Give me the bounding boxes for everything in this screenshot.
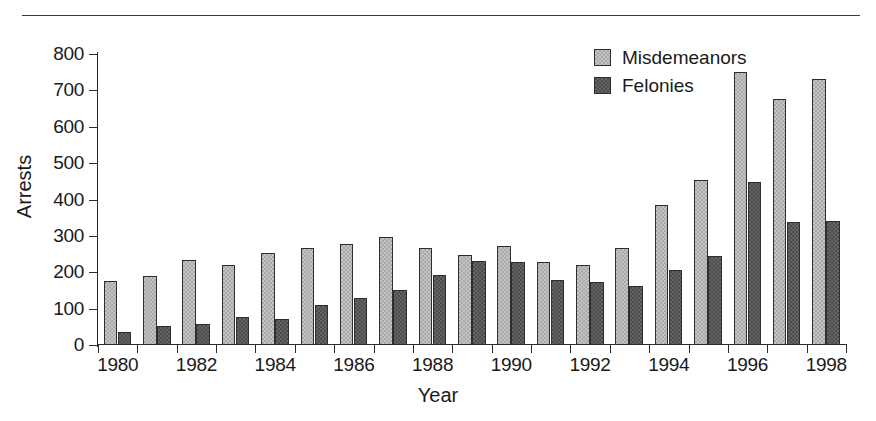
bar-felonies-1983 bbox=[236, 317, 250, 345]
x-axis-tick bbox=[570, 345, 571, 353]
bar-felonies-1998 bbox=[826, 221, 840, 345]
x-axis-tick bbox=[531, 345, 532, 353]
x-axis-tick bbox=[728, 345, 729, 353]
y-axis-tick-label: 100 bbox=[38, 299, 84, 318]
bar-felonies-1984 bbox=[275, 319, 289, 345]
x-axis-tick-label: 1998 bbox=[806, 355, 847, 374]
x-axis-tick-label: 1990 bbox=[491, 355, 532, 374]
bar-felonies-1995 bbox=[708, 256, 722, 345]
bar-misdemeanors-1985 bbox=[301, 248, 315, 345]
bar-felonies-1985 bbox=[315, 305, 329, 345]
legend-swatch-icon bbox=[594, 49, 611, 66]
bar-misdemeanors-1994 bbox=[655, 205, 669, 345]
bar-felonies-1980 bbox=[118, 332, 132, 345]
y-axis-tick-label: 300 bbox=[38, 226, 84, 245]
x-axis-tick bbox=[216, 345, 217, 353]
y-axis-tick bbox=[89, 272, 97, 273]
bar-felonies-1988 bbox=[433, 275, 447, 345]
x-axis-tick-label: 1988 bbox=[412, 355, 453, 374]
y-axis-tick-label: 600 bbox=[38, 117, 84, 136]
bar-misdemeanors-1988 bbox=[419, 248, 433, 345]
bar-misdemeanors-1996 bbox=[734, 72, 748, 345]
bar-felonies-1982 bbox=[196, 324, 210, 345]
bar-misdemeanors-1980 bbox=[104, 281, 118, 345]
y-axis-tick-labels: 0100200300400500600700800 bbox=[30, 0, 84, 421]
bar-felonies-1997 bbox=[787, 222, 801, 345]
y-axis-tick-label: 800 bbox=[38, 44, 84, 63]
bar-misdemeanors-1997 bbox=[773, 99, 787, 345]
bar-misdemeanors-1981 bbox=[143, 276, 157, 345]
bar-misdemeanors-1993 bbox=[615, 248, 629, 345]
x-axis-tick bbox=[137, 345, 138, 353]
x-axis-tick bbox=[689, 345, 690, 353]
x-axis-title: Year bbox=[0, 384, 876, 407]
bar-misdemeanors-1998 bbox=[812, 79, 826, 345]
y-axis-tick bbox=[89, 345, 97, 346]
bar-misdemeanors-1992 bbox=[576, 265, 590, 345]
legend-item-misdemeanors: Misdemeanors bbox=[594, 45, 824, 69]
legend-label: Felonies bbox=[622, 76, 694, 95]
legend-label: Misdemeanors bbox=[622, 48, 747, 67]
bar-felonies-1990 bbox=[511, 262, 525, 345]
bar-felonies-1992 bbox=[590, 282, 604, 345]
bar-misdemeanors-1984 bbox=[261, 253, 275, 345]
x-axis-tick-label: 1992 bbox=[570, 355, 611, 374]
bar-misdemeanors-1982 bbox=[182, 260, 196, 345]
bar-misdemeanors-1995 bbox=[694, 180, 708, 346]
bar-misdemeanors-1986 bbox=[340, 244, 354, 345]
bar-misdemeanors-1987 bbox=[379, 237, 393, 345]
x-axis-tick-label: 1986 bbox=[333, 355, 374, 374]
x-axis-tick bbox=[334, 345, 335, 353]
y-axis-tick bbox=[89, 309, 97, 310]
x-axis-tick-label: 1980 bbox=[97, 355, 138, 374]
bar-misdemeanors-1983 bbox=[222, 265, 236, 345]
x-axis-tick bbox=[492, 345, 493, 353]
x-axis-tick bbox=[767, 345, 768, 353]
bar-chart-figure: 0100200300400500600700800 19801982198419… bbox=[0, 0, 876, 421]
y-axis-tick-label: 0 bbox=[38, 335, 84, 354]
x-axis-tick bbox=[610, 345, 611, 353]
y-axis-tick bbox=[89, 54, 97, 55]
legend-item-felonies: Felonies bbox=[594, 73, 824, 97]
x-axis-tick bbox=[807, 345, 808, 353]
y-axis-tick bbox=[89, 127, 97, 128]
x-axis-tick bbox=[374, 345, 375, 353]
x-axis-tick-label: 1994 bbox=[648, 355, 689, 374]
x-axis-tick bbox=[649, 345, 650, 353]
chart-legend: MisdemeanorsFelonies bbox=[594, 45, 824, 101]
bar-felonies-1994 bbox=[669, 270, 683, 345]
x-axis-tick bbox=[295, 345, 296, 353]
y-axis-title: Arrests bbox=[13, 117, 36, 257]
x-axis-tick-label: 1982 bbox=[176, 355, 217, 374]
bar-felonies-1989 bbox=[472, 261, 486, 345]
x-axis-tick-label: 1996 bbox=[727, 355, 768, 374]
bar-felonies-1993 bbox=[629, 286, 643, 345]
y-axis-tick bbox=[89, 90, 97, 91]
y-axis-tick-label: 200 bbox=[38, 262, 84, 281]
y-axis-tick bbox=[89, 236, 97, 237]
legend-swatch-icon bbox=[594, 77, 611, 94]
x-axis-tick bbox=[177, 345, 178, 353]
y-axis-tick-label: 700 bbox=[38, 80, 84, 99]
x-axis-tick bbox=[452, 345, 453, 353]
y-axis-tick-label: 400 bbox=[38, 190, 84, 209]
bar-misdemeanors-1989 bbox=[458, 255, 472, 345]
bar-felonies-1991 bbox=[551, 280, 565, 345]
y-axis-tick-label: 500 bbox=[38, 153, 84, 172]
bar-felonies-1987 bbox=[393, 290, 407, 345]
bar-felonies-1981 bbox=[157, 326, 171, 345]
x-axis-tick-label: 1984 bbox=[255, 355, 296, 374]
x-axis-tick bbox=[98, 345, 99, 353]
y-axis-tick bbox=[89, 163, 97, 164]
bar-felonies-1996 bbox=[748, 182, 762, 345]
bar-misdemeanors-1991 bbox=[537, 262, 551, 345]
bar-felonies-1986 bbox=[354, 298, 368, 345]
x-axis-tick bbox=[846, 345, 847, 353]
bar-misdemeanors-1990 bbox=[497, 246, 511, 345]
x-axis-tick bbox=[255, 345, 256, 353]
y-axis-tick bbox=[89, 200, 97, 201]
header-divider-rule bbox=[22, 15, 860, 16]
x-axis-tick bbox=[413, 345, 414, 353]
